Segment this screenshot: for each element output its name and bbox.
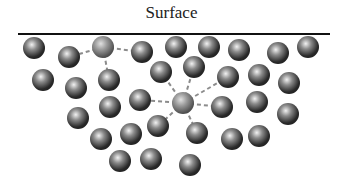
molecule bbox=[129, 89, 151, 111]
molecule bbox=[248, 64, 270, 86]
molecule bbox=[246, 91, 268, 113]
molecule bbox=[109, 150, 131, 172]
molecule-diagram bbox=[0, 0, 343, 190]
molecule bbox=[23, 37, 45, 59]
molecule bbox=[186, 122, 208, 144]
molecule bbox=[278, 72, 300, 94]
molecule bbox=[98, 69, 120, 91]
molecule bbox=[179, 154, 201, 176]
molecule bbox=[248, 125, 270, 147]
molecule bbox=[165, 36, 187, 58]
molecule-surface-focus bbox=[92, 36, 114, 58]
molecule bbox=[150, 61, 172, 83]
molecule bbox=[58, 46, 80, 68]
molecule bbox=[65, 77, 87, 99]
molecule bbox=[198, 36, 220, 58]
molecule bbox=[131, 41, 153, 63]
molecules bbox=[23, 36, 319, 176]
molecule bbox=[211, 96, 233, 118]
molecule bbox=[90, 128, 112, 150]
molecule bbox=[99, 96, 121, 118]
molecule bbox=[221, 128, 243, 150]
molecule bbox=[120, 123, 142, 145]
molecule bbox=[277, 103, 299, 125]
molecule bbox=[267, 42, 289, 64]
molecule bbox=[297, 36, 319, 58]
molecule bbox=[67, 107, 89, 129]
molecule bbox=[183, 56, 205, 78]
molecule-interior-focus bbox=[172, 92, 194, 114]
molecule bbox=[32, 69, 54, 91]
molecule bbox=[228, 39, 250, 61]
molecule bbox=[140, 148, 162, 170]
molecule bbox=[217, 66, 239, 88]
molecule bbox=[147, 115, 169, 137]
